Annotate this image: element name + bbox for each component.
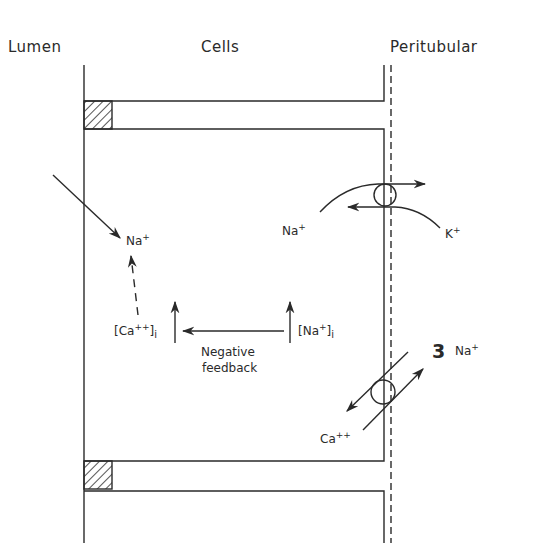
tight-junction-top bbox=[84, 101, 112, 129]
lower-cell-outline bbox=[84, 491, 384, 543]
peritubular-header: Peritubular bbox=[390, 38, 478, 56]
cells-header: Cells bbox=[201, 38, 239, 56]
middle-cell-outline bbox=[84, 129, 384, 461]
na-efflux-arrow bbox=[320, 184, 425, 212]
exchanger-ca-label: Ca++ bbox=[320, 430, 351, 446]
intracellular-ca-label: [Ca++]i bbox=[114, 322, 157, 340]
ca-to-na-dashed-arrow bbox=[131, 256, 138, 315]
na-lumen-label: Na+ bbox=[126, 232, 150, 248]
negative-feedback-label-line1: Negative bbox=[201, 345, 255, 359]
luminal-na-entry-arrow bbox=[53, 175, 120, 238]
k-influx-arrow bbox=[348, 207, 440, 228]
lumen-header: Lumen bbox=[8, 38, 61, 56]
k-pump-label: K+ bbox=[445, 225, 460, 241]
exchanger-stoichiometry: 3 bbox=[432, 340, 445, 362]
upper-cell-outline bbox=[84, 65, 384, 101]
na-k-pump-icon bbox=[374, 184, 396, 206]
intracellular-na-label: [Na+]i bbox=[298, 322, 334, 340]
tight-junction-bottom bbox=[84, 461, 112, 489]
negative-feedback-label-line2: feedback bbox=[202, 361, 257, 375]
na-pump-label: Na+ bbox=[282, 222, 306, 238]
diagram-canvas bbox=[0, 0, 539, 557]
exchanger-na-label: Na+ bbox=[455, 342, 479, 358]
exchanger-ca-out-arrow bbox=[363, 369, 423, 430]
